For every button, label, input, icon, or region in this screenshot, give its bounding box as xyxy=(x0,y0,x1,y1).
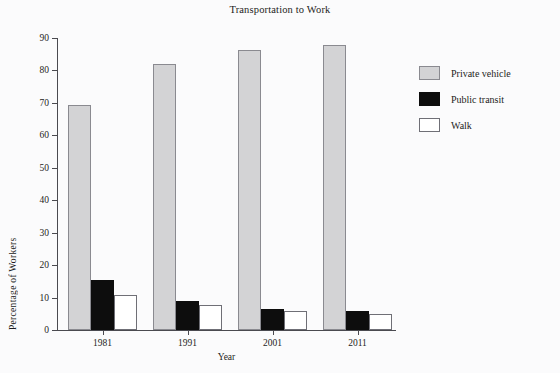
bar xyxy=(369,314,392,330)
y-tick-mark xyxy=(52,298,57,299)
chart-legend: Private vehiclePublic transitWalk xyxy=(419,62,511,140)
x-tick-mark xyxy=(103,330,104,335)
y-tick-mark xyxy=(52,168,57,169)
y-tick-label: 60 xyxy=(40,130,50,140)
legend-swatch-icon xyxy=(419,118,440,132)
y-axis-title: Percentage of Workers xyxy=(8,30,18,330)
bar-group xyxy=(238,30,307,330)
y-tick-mark xyxy=(52,103,57,104)
y-tick-label: 0 xyxy=(44,325,49,335)
x-tick-mark xyxy=(188,330,189,335)
legend-label: Walk xyxy=(451,120,472,131)
x-tick-label: 2011 xyxy=(348,338,367,348)
bar xyxy=(238,50,261,330)
x-tick-mark xyxy=(358,330,359,335)
x-axis-title: Year xyxy=(57,352,396,362)
y-tick-label: 10 xyxy=(40,293,50,303)
bar xyxy=(153,64,176,330)
y-tick-mark xyxy=(52,233,57,234)
x-axis-line xyxy=(57,330,396,331)
x-tick-label: 1981 xyxy=(93,338,112,348)
x-tick-label: 2001 xyxy=(263,338,282,348)
y-tick-label: 50 xyxy=(40,163,50,173)
chart-title: Transportation to Work xyxy=(0,4,560,15)
bar-group xyxy=(68,30,137,330)
y-tick-mark xyxy=(52,200,57,201)
bar xyxy=(91,280,114,330)
bar xyxy=(284,311,307,330)
y-tick-label: 80 xyxy=(40,65,50,75)
legend-item[interactable]: Walk xyxy=(419,114,511,136)
plot-area: 0102030405060708090 1981199120012011 xyxy=(57,30,396,330)
bar-chart: Transportation to Work Percentage of Wor… xyxy=(0,0,560,373)
y-tick-mark xyxy=(52,265,57,266)
legend-swatch-icon xyxy=(419,92,440,106)
legend-item[interactable]: Public transit xyxy=(419,88,511,110)
y-tick-mark xyxy=(52,135,57,136)
y-tick-label: 90 xyxy=(40,33,50,43)
y-tick-label: 20 xyxy=(40,260,50,270)
legend-swatch-icon xyxy=(419,66,440,80)
legend-item[interactable]: Private vehicle xyxy=(419,62,511,84)
bar xyxy=(261,309,284,330)
legend-label: Private vehicle xyxy=(451,68,511,79)
bar xyxy=(323,45,346,331)
bar xyxy=(114,295,137,330)
y-tick-label: 30 xyxy=(40,228,50,238)
x-tick-label: 1991 xyxy=(178,338,197,348)
bar-group xyxy=(153,30,222,330)
legend-label: Public transit xyxy=(451,94,504,105)
y-tick-mark xyxy=(52,330,57,331)
bar xyxy=(68,105,91,330)
bar xyxy=(176,301,199,330)
y-tick-mark xyxy=(52,38,57,39)
bar-group xyxy=(323,30,392,330)
bar xyxy=(199,305,222,330)
x-tick-mark xyxy=(273,330,274,335)
y-axis-line xyxy=(57,38,58,330)
y-tick-label: 40 xyxy=(40,195,50,205)
y-tick-label: 70 xyxy=(40,98,50,108)
y-tick-mark xyxy=(52,70,57,71)
bar xyxy=(346,311,369,330)
